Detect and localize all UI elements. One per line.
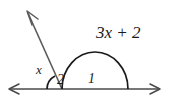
angle-number-1-label: 1 <box>88 72 95 86</box>
figure-canvas <box>0 0 169 107</box>
geometry-figure: 3x + 2 x 2 1 <box>0 0 169 107</box>
angle-number-2-label: 2 <box>57 73 64 87</box>
horizontal-line <box>9 84 160 94</box>
small-angle-variable-label: x <box>36 63 42 76</box>
large-angle-arc <box>62 52 128 89</box>
large-angle-label: 3x + 2 <box>96 24 141 41</box>
small-angle-arc <box>47 76 55 89</box>
